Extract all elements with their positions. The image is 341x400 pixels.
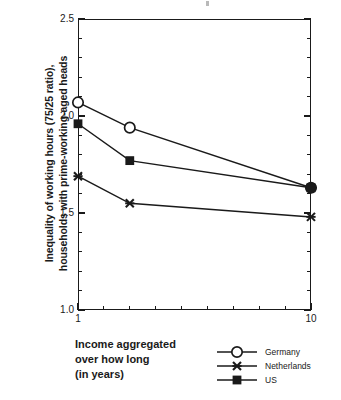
plot-area: 1.01.52.02.5 110 [78,19,311,310]
legend-marker-open-circle-icon [215,345,259,359]
series-plot [78,19,311,310]
legend-label: Germany [259,347,300,357]
data-point-filled-square [233,376,242,385]
series-markers [73,172,315,221]
legend-marker-filled-square-icon [215,373,259,387]
x-axis-title: Income aggregated over how long (in year… [75,337,215,382]
series-markers [73,97,316,193]
legend-label: US [259,375,277,385]
data-point-open-circle [125,122,135,132]
x-tick-label: 10 [305,314,316,324]
data-point-filled-square [74,119,83,128]
data-point-open-circle [73,97,83,107]
y-tick-label: 2.0 [60,111,74,121]
legend-item-germany: Germany [215,345,341,359]
legend-item-netherlands: Netherlands [215,359,341,373]
y-tick-label: 1.0 [60,305,74,315]
data-point-x-cross [73,172,82,180]
chart-legend: GermanyNetherlandsUS [215,345,341,387]
y-axis-title: Inequality of working hours (75/25 ratio… [43,14,70,314]
legend-label: Netherlands [259,361,311,371]
data-point-open-circle [232,347,242,357]
series-line [78,124,311,188]
data-point-filled-square [125,156,134,165]
data-point-x-cross [232,362,241,370]
data-point-x-cross [306,213,315,221]
legend-item-us: US [215,373,341,387]
series-line [78,102,311,187]
data-point-converged-filled-circle [306,182,317,193]
series-markers [74,119,316,192]
y-tick-label: 1.5 [60,208,74,218]
chart-figure: Inequality of working hours (75/25 ratio… [0,0,341,400]
y-tick-label: 2.5 [60,14,74,24]
x-tick-label: 1 [75,314,81,324]
scan-artifact-speck [206,1,209,6]
data-point-x-cross [125,199,134,207]
legend-marker-x-cross-icon [215,359,259,373]
